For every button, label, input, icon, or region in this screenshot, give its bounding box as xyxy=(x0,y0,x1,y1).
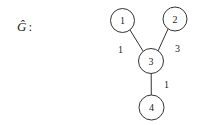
graph-diagram: Ĝ: 1 3 1 1 2 3 4 xyxy=(0,0,200,125)
node-1-label: 1 xyxy=(120,15,125,26)
node-4-label: 4 xyxy=(149,102,154,113)
node-4: 4 xyxy=(139,95,164,120)
edge-2-3 xyxy=(158,29,168,51)
edge-weight-1-3: 1 xyxy=(118,44,123,55)
graph-label: Ĝ: xyxy=(17,19,32,34)
node-3: 3 xyxy=(139,49,164,74)
node-1: 1 xyxy=(111,9,135,33)
edge-1-3 xyxy=(130,30,143,51)
node-2-label: 2 xyxy=(173,14,178,25)
edge-weight-2-3: 3 xyxy=(175,43,180,54)
node-2: 2 xyxy=(163,7,187,31)
edge-weight-3-4: 1 xyxy=(164,79,169,90)
node-3-label: 3 xyxy=(149,56,154,67)
